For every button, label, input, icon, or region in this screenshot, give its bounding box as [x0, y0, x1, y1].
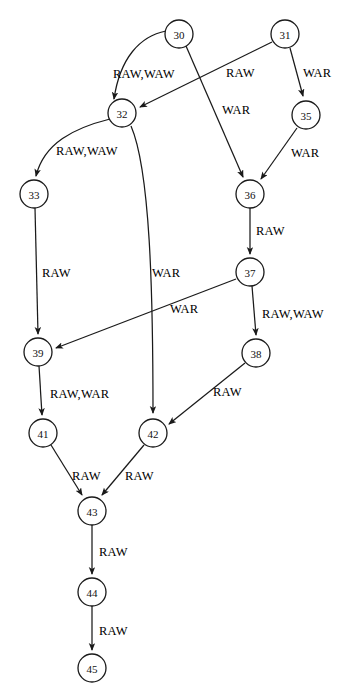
edge-label: RAW: [226, 67, 255, 80]
node-label: 36: [245, 189, 257, 201]
graph-node: 30: [165, 20, 193, 48]
node-label: 43: [87, 506, 99, 518]
edge-label: RAW,WAW: [262, 308, 324, 321]
edge-label: RAW: [99, 546, 128, 559]
graph-edge: [131, 126, 153, 413]
node-label: 44: [87, 587, 99, 599]
graph-node: 32: [108, 99, 136, 127]
node-label: 39: [33, 347, 45, 359]
edge-label: RAW,WAW: [113, 68, 175, 81]
node-label: 35: [301, 110, 313, 122]
graph-node: 43: [78, 497, 106, 525]
graph-node: 45: [78, 654, 106, 682]
node-label: 42: [148, 428, 159, 440]
graph-node: 38: [242, 339, 270, 367]
node-label: 31: [280, 29, 291, 41]
graph-edge: [252, 286, 256, 335]
graph-canvas: 3031323533363738394142434445: [0, 0, 355, 697]
graph-edge: [35, 208, 38, 334]
edge-label: WAR: [222, 104, 250, 117]
edge-label: RAW: [213, 386, 242, 399]
node-label: 32: [117, 108, 128, 120]
graph-node: 31: [271, 20, 299, 48]
graph-node: 33: [20, 180, 48, 208]
node-label: 33: [29, 189, 41, 201]
edge-label: RAW: [99, 625, 128, 638]
edge-label: RAW: [72, 470, 101, 483]
edge-label: RAW: [256, 225, 285, 238]
edge-label: WAR: [152, 267, 180, 280]
graph-edge: [290, 48, 303, 96]
edge-label: WAR: [303, 67, 331, 80]
node-label: 45: [87, 663, 99, 675]
edge-label: WAR: [170, 303, 198, 316]
edge-label: RAW,WAW: [56, 145, 118, 158]
graph-node: 39: [24, 338, 52, 366]
graph-node: 44: [78, 578, 106, 606]
edge-label: RAW: [125, 470, 154, 483]
node-label: 30: [174, 29, 186, 41]
graph-node: 36: [236, 180, 264, 208]
graph-node: 42: [139, 419, 167, 447]
graph-edge: [39, 366, 42, 415]
graph-edge: [56, 279, 236, 348]
node-label: 37: [245, 267, 257, 279]
node-label: 41: [38, 428, 49, 440]
edge-label: WAR: [291, 147, 319, 160]
node-label: 38: [251, 348, 263, 360]
nodes-layer: 3031323533363738394142434445: [20, 20, 320, 682]
graph-node: 41: [29, 419, 57, 447]
graph-node: 35: [292, 101, 320, 129]
edge-label: RAW: [42, 267, 71, 280]
dependence-graph-figure: 3031323533363738394142434445 RAW,WAWWARR…: [0, 0, 355, 697]
edge-label: RAW,WAR: [50, 388, 109, 401]
graph-node: 37: [236, 258, 264, 286]
graph-edge: [114, 31, 166, 99]
